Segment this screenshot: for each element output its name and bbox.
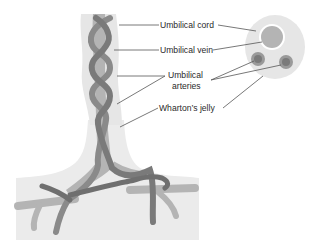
cord-cross-section — [245, 15, 305, 79]
umbilical-cord-diagram — [0, 0, 318, 249]
label-umbilical-vein: Umbilical vein — [160, 45, 213, 55]
label-umbilical-cord: Umbilical cord — [160, 20, 214, 30]
label-whartons-jelly: Wharton’s jelly — [159, 103, 215, 113]
label-umbilical-arteries-2: arteries — [172, 81, 201, 91]
label-umbilical-arteries-1: Umbilical — [168, 70, 203, 80]
